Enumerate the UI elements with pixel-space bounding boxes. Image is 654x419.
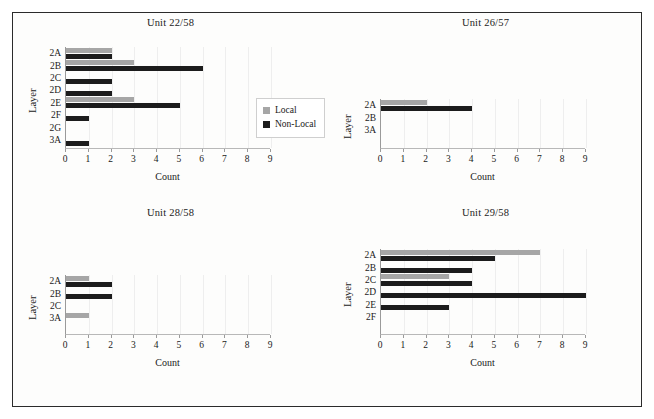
x-axis-tick-mark	[133, 149, 134, 152]
x-axis-tick-mark	[539, 149, 540, 152]
y-axis-tick-label: 2A	[350, 250, 376, 260]
y-axis-tick-label: 2A	[350, 100, 376, 110]
x-axis-tick-label: 3	[126, 154, 140, 164]
x-axis-tick-label: 8	[240, 340, 254, 350]
x-axis-tick-mark	[156, 149, 157, 152]
y-axis-tick-label: 3A	[35, 313, 61, 323]
x-axis-tick-mark	[179, 335, 180, 338]
y-axis-tick-label: 2B	[35, 61, 61, 71]
x-axis-tick-mark	[448, 149, 449, 152]
y-axis-tick-label: 2D	[350, 287, 376, 297]
x-axis-tick-label: 6	[195, 340, 209, 350]
legend: LocalNon-Local	[256, 98, 325, 138]
x-axis-tick-label: 9	[578, 154, 592, 164]
y-axis-title: Layer	[342, 115, 353, 139]
y-axis-tick-label: 2C	[35, 301, 61, 311]
x-axis-tick-mark	[202, 149, 203, 152]
x-axis-tick-mark	[270, 335, 271, 338]
x-axis-tick-label: 6	[510, 340, 524, 350]
bar-nonlocal	[66, 54, 112, 59]
x-axis-tick-mark	[133, 335, 134, 338]
bar-local	[66, 97, 134, 102]
bar-local	[66, 48, 112, 53]
x-axis-tick-label: 2	[419, 154, 433, 164]
plot-area	[65, 47, 270, 149]
y-axis-tick-label: 2G	[35, 123, 61, 133]
x-axis-title: Count	[470, 357, 494, 368]
x-axis-tick-mark	[111, 335, 112, 338]
bar-nonlocal	[66, 141, 89, 146]
x-axis-tick-label: 4	[464, 154, 478, 164]
x-axis-tick-mark	[494, 335, 495, 338]
grid-line	[157, 47, 158, 148]
grid-line	[112, 275, 113, 334]
grid-line	[427, 249, 428, 334]
grid-line	[495, 99, 496, 148]
grid-line	[134, 47, 135, 148]
y-axis-title: Layer	[342, 283, 353, 307]
legend-item-local: Local	[263, 104, 316, 118]
x-axis-tick-mark	[380, 335, 381, 338]
chart-panel-unit-29-58: Unit 29/58 2A2B2C2D2E2F0123456789CountLa…	[328, 207, 643, 405]
bar-nonlocal	[381, 293, 586, 298]
grid-line	[586, 249, 587, 334]
x-axis-tick-label: 4	[149, 340, 163, 350]
x-axis-tick-mark	[179, 149, 180, 152]
x-axis-tick-mark	[65, 149, 66, 152]
x-axis-tick-mark	[247, 335, 248, 338]
grid-line	[225, 47, 226, 148]
bar-nonlocal	[381, 256, 495, 261]
x-axis-tick-label: 7	[217, 154, 231, 164]
y-axis-title: Layer	[27, 89, 38, 113]
x-axis-tick-mark	[585, 335, 586, 338]
grid-line	[586, 99, 587, 148]
bar-nonlocal	[66, 91, 112, 96]
x-axis-tick-mark	[585, 149, 586, 152]
y-axis-tick-label: 2A	[35, 48, 61, 58]
grid-line	[134, 275, 135, 334]
x-axis-tick-mark	[426, 335, 427, 338]
bar-local	[66, 60, 134, 65]
y-axis-tick-label: 2B	[35, 289, 61, 299]
grid-line	[271, 275, 272, 334]
bar-local	[66, 276, 89, 281]
plot-area	[380, 249, 585, 335]
x-axis-tick-label: 1	[396, 154, 410, 164]
bar-nonlocal	[66, 282, 112, 287]
grid-line	[225, 275, 226, 334]
panel-title: Unit 28/58	[13, 207, 328, 218]
panel-title: Unit 22/58	[13, 17, 328, 28]
y-axis-tick-label: 3A	[35, 135, 61, 145]
x-axis-tick-label: 5	[487, 154, 501, 164]
x-axis-tick-label: 7	[532, 154, 546, 164]
x-axis-tick-label: 8	[555, 340, 569, 350]
panel-title: Unit 29/58	[328, 207, 643, 218]
x-axis-tick-label: 9	[263, 154, 277, 164]
x-axis-tick-label: 5	[487, 340, 501, 350]
bar-nonlocal	[66, 103, 180, 108]
legend-item-nonlocal: Non-Local	[263, 118, 316, 132]
y-axis-tick-label: 2A	[35, 276, 61, 286]
figure-frame: Unit 22/58 2A2B2C2D2E2F2G3A0123456789Cou…	[12, 12, 642, 407]
y-axis-tick-label: 2F	[35, 110, 61, 120]
grid-line	[180, 275, 181, 334]
x-axis-tick-mark	[448, 335, 449, 338]
x-axis-title: Count	[155, 357, 179, 368]
bar-local	[66, 313, 89, 318]
x-axis-tick-label: 2	[104, 340, 118, 350]
x-axis-tick-mark	[562, 149, 563, 152]
grid-line	[248, 47, 249, 148]
chart-panel-unit-28-58: Unit 28/58 2A2B2C3A0123456789CountLayer	[13, 207, 328, 405]
bar-nonlocal	[381, 281, 472, 286]
grid-line	[472, 99, 473, 148]
grid-line	[157, 275, 158, 334]
grid-line	[563, 249, 564, 334]
plot-area	[65, 275, 270, 335]
x-axis-tick-mark	[202, 335, 203, 338]
x-axis-tick-label: 0	[58, 154, 72, 164]
grid-line	[563, 99, 564, 148]
grid-line	[540, 99, 541, 148]
legend-swatch-local-icon	[263, 107, 270, 114]
bar-local	[381, 100, 427, 105]
x-axis-tick-mark	[403, 335, 404, 338]
